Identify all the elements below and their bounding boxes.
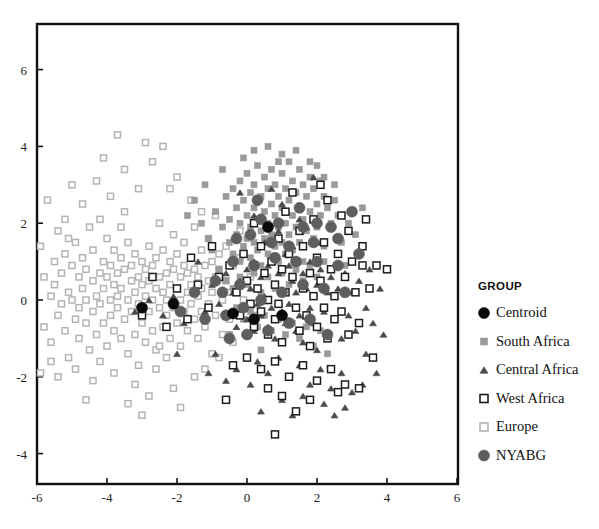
data-point xyxy=(363,351,370,357)
data-point xyxy=(136,186,142,192)
data-point xyxy=(66,355,72,361)
legend-item-label: South Africa xyxy=(496,333,570,349)
data-point xyxy=(366,267,373,273)
data-point xyxy=(153,255,159,261)
data-point xyxy=(195,259,202,265)
data-point xyxy=(223,278,229,284)
data-point xyxy=(353,232,359,238)
data-point xyxy=(174,251,180,257)
data-point xyxy=(178,405,184,411)
data-point xyxy=(125,297,131,303)
data-point xyxy=(300,393,307,399)
data-point xyxy=(174,174,180,180)
data-point xyxy=(349,389,356,395)
data-point xyxy=(62,216,68,222)
data-point xyxy=(359,262,366,269)
x-tick-label: 0 xyxy=(244,490,251,505)
data-point xyxy=(300,362,307,369)
data-point xyxy=(83,397,89,403)
data-point xyxy=(269,201,275,207)
data-point xyxy=(90,278,96,284)
legend-item-south-africa[interactable]: South Africa xyxy=(481,333,571,349)
legend-item-europe[interactable]: Europe xyxy=(480,418,538,434)
data-point xyxy=(347,206,358,217)
data-point xyxy=(262,174,268,180)
data-point xyxy=(247,382,254,388)
data-point xyxy=(157,220,163,226)
data-point xyxy=(331,316,338,323)
data-point xyxy=(209,259,215,265)
x-tick-label: -6 xyxy=(32,490,43,505)
data-point xyxy=(76,335,82,341)
data-point xyxy=(384,266,391,273)
data-point xyxy=(62,328,68,334)
data-point xyxy=(118,255,124,261)
open-square-light-icon xyxy=(480,423,488,431)
data-point xyxy=(293,408,300,415)
data-point xyxy=(185,270,191,276)
data-point xyxy=(269,166,275,172)
data-point xyxy=(90,378,96,384)
legend-item-label: NYABG xyxy=(496,447,546,463)
data-point xyxy=(233,324,240,330)
data-point xyxy=(283,186,289,192)
data-point xyxy=(258,243,265,250)
data-point xyxy=(283,332,289,338)
data-point xyxy=(38,243,44,249)
data-point xyxy=(272,281,279,288)
data-point xyxy=(300,182,306,188)
data-point xyxy=(143,266,149,272)
data-point xyxy=(94,178,100,184)
data-point xyxy=(230,186,236,192)
data-point xyxy=(248,189,254,195)
legend-item-west-africa[interactable]: West Africa xyxy=(480,390,565,406)
data-point xyxy=(217,287,228,298)
data-point xyxy=(132,381,138,387)
data-point xyxy=(122,166,128,172)
data-point xyxy=(272,336,279,342)
data-point xyxy=(290,213,296,219)
data-point xyxy=(94,293,100,299)
legend-item-centroid[interactable]: Centroid xyxy=(479,304,548,320)
data-point xyxy=(249,260,260,271)
data-point xyxy=(209,289,215,295)
data-point xyxy=(345,227,352,234)
data-point xyxy=(80,201,86,207)
data-point xyxy=(377,286,384,292)
data-point xyxy=(270,252,281,263)
data-point xyxy=(115,132,121,138)
data-point xyxy=(157,305,163,311)
data-point xyxy=(308,237,319,248)
data-point xyxy=(338,336,345,342)
data-point xyxy=(143,140,149,146)
data-point xyxy=(235,279,246,290)
data-point xyxy=(90,309,96,315)
data-point xyxy=(192,316,198,322)
legend-item-central-africa[interactable]: Central Africa xyxy=(480,361,579,377)
data-point xyxy=(335,250,342,257)
data-point xyxy=(321,304,328,311)
data-point xyxy=(289,189,296,196)
data-point xyxy=(199,247,205,253)
data-point xyxy=(263,325,274,336)
data-point xyxy=(104,236,110,242)
data-point xyxy=(293,304,300,311)
legend-item-nyabg[interactable]: NYABG xyxy=(479,447,547,463)
data-point xyxy=(210,275,221,286)
data-point xyxy=(122,266,128,272)
data-point xyxy=(251,182,257,188)
data-point xyxy=(45,197,51,203)
data-point xyxy=(272,182,278,188)
data-point xyxy=(331,293,338,300)
data-point xyxy=(192,374,198,380)
data-point xyxy=(279,266,286,273)
data-point xyxy=(122,209,128,215)
y-tick-label: 4 xyxy=(21,139,28,154)
data-point xyxy=(164,270,170,276)
data-point xyxy=(223,378,230,384)
data-point xyxy=(185,328,191,334)
data-point xyxy=(277,287,288,298)
data-point xyxy=(167,259,173,265)
data-point xyxy=(300,270,307,276)
data-point xyxy=(258,409,265,415)
